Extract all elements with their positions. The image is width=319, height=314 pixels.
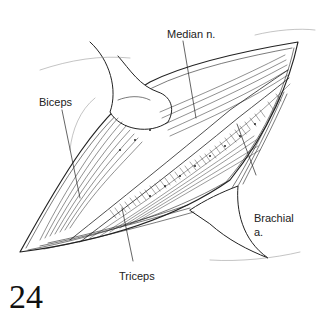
anatomical-illustration <box>0 0 319 314</box>
label-brachial-line2: a. <box>254 226 263 239</box>
leader-biceps <box>62 110 80 198</box>
leader-triceps <box>122 208 133 261</box>
upper-retractor-flap <box>90 42 172 129</box>
biceps-muscle <box>40 118 142 240</box>
upper-muscle-band <box>160 55 288 136</box>
label-triceps: Triceps <box>119 270 155 283</box>
leader-median <box>183 41 196 118</box>
label-brachial-line1: Brachial <box>254 212 294 225</box>
figure-number: 24 <box>9 280 43 314</box>
label-biceps: Biceps <box>39 96 72 109</box>
label-median-nerve: Median n. <box>167 28 215 41</box>
